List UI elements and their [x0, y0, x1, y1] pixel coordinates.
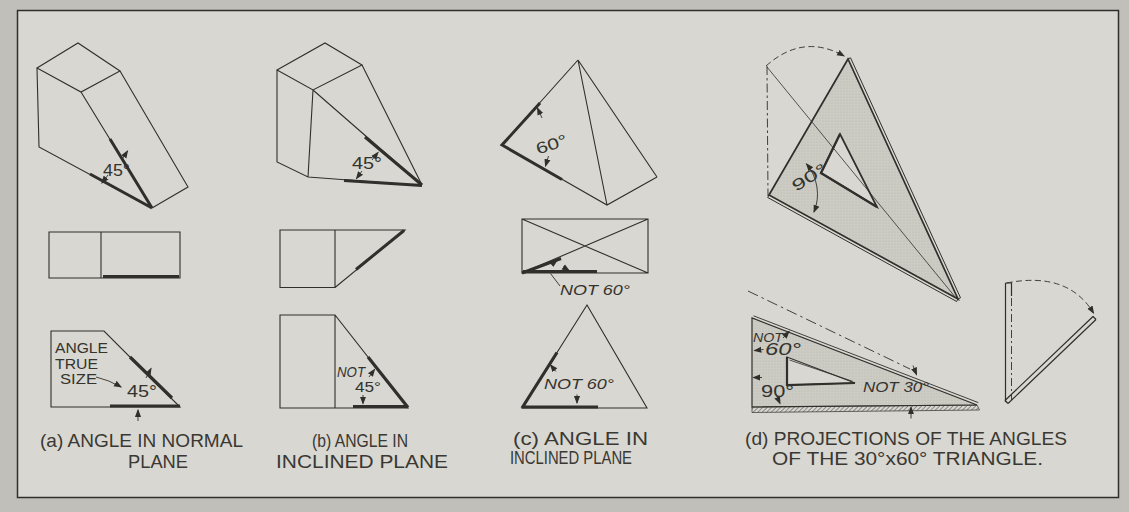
front-90-label: 90°	[761, 383, 794, 400]
front-angle-label: 45°	[127, 383, 157, 400]
iso-angle-label: 45°	[103, 161, 130, 180]
panel-d-caption-line1: (d) PROJECTIONS OF THE ANGLES	[745, 428, 1067, 449]
panel-b-caption-line2: INCLINED PLANE	[276, 451, 448, 472]
not-angle-note: NOT 60°	[544, 375, 614, 392]
iso-angle-label: 45°	[352, 154, 382, 173]
panel-a-caption-line2: PLANE	[128, 451, 188, 472]
textbook-figure: 45° ANGLE TRUE SIZE 45° (a) ANGLE IN NOR…	[0, 0, 1129, 512]
true-size-note-line: SIZE	[60, 370, 97, 387]
true-size-note-line: ANGLE	[55, 339, 108, 356]
front-angle-label: 45°	[355, 378, 381, 395]
panel-c-caption-line1: (c) ANGLE IN	[513, 428, 648, 449]
panel-c-caption-line2: INCLINED PLANE	[510, 447, 632, 468]
not-angle-note: NOT 60°	[560, 282, 630, 298]
panel-b-caption-line1: (b) ANGLE IN	[312, 430, 408, 451]
figure-canvas: 45° ANGLE TRUE SIZE 45° (a) ANGLE IN NOR…	[0, 0, 1129, 512]
panel-a-caption-line1: (a) ANGLE IN NORMAL	[40, 430, 243, 451]
front-60-label: 60°	[765, 341, 802, 358]
not-30-label: NOT 30°	[863, 379, 929, 395]
panel-d-caption-line2: OF THE 30°x60° TRIANGLE.	[772, 448, 1043, 469]
figure-frame	[18, 11, 1119, 498]
